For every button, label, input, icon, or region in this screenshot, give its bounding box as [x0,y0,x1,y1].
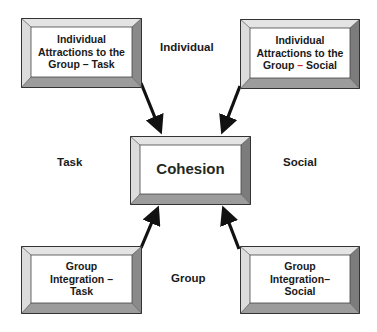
box-group-integration-social: Group Integration– Social [240,246,360,314]
arrow-bottom-right-to-cohesion [224,210,239,249]
box-line: Group [284,260,316,272]
box-line: Integration– [270,273,330,285]
axis-label-social: Social [283,156,317,168]
cohesion-label: Cohesion [140,145,241,194]
box-line: Individual [57,33,106,45]
box-group-integration-task: Group Integration – Task [21,246,142,314]
box-label: Group Integration – Task [31,255,132,303]
axis-label-task: Task [57,156,82,168]
arrow-top-left-to-cohesion [141,83,160,130]
box-line: Group [66,260,98,272]
box-cohesion: Cohesion [130,136,251,205]
box-line: Attractions to the [257,47,344,59]
box-line: Individual [275,34,324,46]
box-individual-attractions-social: Individual Attractions to the Group – So… [240,19,360,89]
box-label: Individual Attractions to the Group – So… [250,28,350,78]
box-line: Attractions to the [38,46,125,58]
axis-label-group: Group [171,272,206,284]
arrow-top-right-to-cohesion [223,86,240,130]
box-line: Social [285,285,316,297]
box-label: Group Integration– Social [250,255,350,303]
arrow-bottom-left-to-cohesion [141,210,157,248]
box-line: Task [70,285,93,297]
box-line: Integration – [50,273,113,285]
box-label: Individual Attractions to the Group – Ta… [31,27,132,77]
axis-label-individual: Individual [160,41,214,53]
box-line: Group – Task [48,58,114,70]
box-line: Group [263,59,297,71]
box-individual-attractions-task: Individual Attractions to the Group – Ta… [21,18,142,88]
box-line: Social [303,59,337,71]
